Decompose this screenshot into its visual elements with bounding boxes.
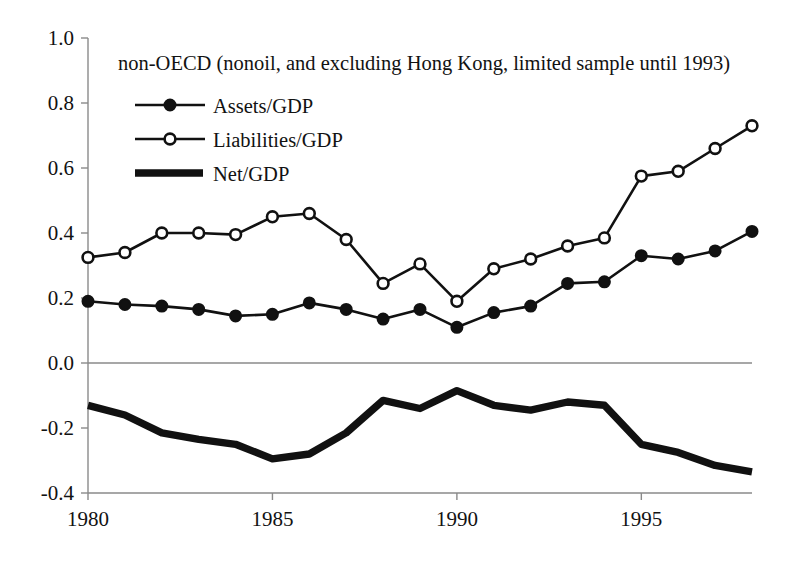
series-line-net-gdp xyxy=(88,391,752,472)
data-point-marker xyxy=(230,229,241,240)
y-axis-tick-labels: 1.00.80.60.40.20.0-0.2-0.4 xyxy=(41,26,75,505)
data-point-marker xyxy=(525,301,536,312)
data-point-marker xyxy=(636,171,647,182)
data-point-marker xyxy=(710,143,721,154)
x-tick-label: 1980 xyxy=(67,507,109,531)
y-tick-label: -0.2 xyxy=(41,416,74,440)
data-point-marker xyxy=(452,296,463,307)
y-tick-label: 0.0 xyxy=(48,351,74,375)
data-point-marker xyxy=(156,301,167,312)
data-point-marker xyxy=(267,211,278,222)
y-tick-label: 0.2 xyxy=(48,286,74,310)
data-point-marker xyxy=(230,311,241,322)
data-point-marker xyxy=(193,228,204,239)
y-tick-label: 0.4 xyxy=(48,221,75,245)
data-point-marker xyxy=(747,226,758,237)
data-point-marker xyxy=(599,276,610,287)
chart-title: non-OECD (nonoil, and excluding Hong Kon… xyxy=(118,52,730,75)
data-point-marker xyxy=(304,298,315,309)
data-point-marker xyxy=(636,250,647,261)
data-point-marker xyxy=(341,234,352,245)
data-point-marker xyxy=(83,252,94,263)
data-point-marker xyxy=(710,246,721,257)
legend-marker-filled-circle xyxy=(165,100,176,111)
chart-page: 1.00.80.60.40.20.0-0.2-0.4 1980198519901… xyxy=(0,0,793,563)
legend-label: Liabilities/GDP xyxy=(213,129,343,151)
data-point-marker xyxy=(378,314,389,325)
data-point-marker xyxy=(562,241,573,252)
chart-title-text: non-OECD (nonoil, and excluding Hong Kon… xyxy=(118,52,730,75)
data-point-marker xyxy=(673,166,684,177)
data-point-marker xyxy=(488,263,499,274)
x-tick-label: 1985 xyxy=(251,507,293,531)
x-tick-label: 1990 xyxy=(436,507,478,531)
data-point-marker xyxy=(673,254,684,265)
data-point-marker xyxy=(415,304,426,315)
legend-label: Net/GDP xyxy=(213,163,289,185)
y-tick-label: 1.0 xyxy=(48,26,74,50)
y-tick-label: 0.6 xyxy=(48,156,74,180)
series-line-liabilities-gdp xyxy=(88,126,752,301)
data-point-marker xyxy=(120,247,131,258)
chart-canvas: 1.00.80.60.40.20.0-0.2-0.4 1980198519901… xyxy=(0,0,793,563)
data-point-marker xyxy=(156,228,167,239)
chart-legend: Assets/GDPLiabilities/GDPNet/GDP xyxy=(135,95,343,185)
data-point-marker xyxy=(525,254,536,265)
data-point-marker xyxy=(452,322,463,333)
data-point-marker xyxy=(747,120,758,131)
data-point-marker xyxy=(378,278,389,289)
data-point-marker xyxy=(304,208,315,219)
data-point-marker xyxy=(83,296,94,307)
data-point-marker xyxy=(488,307,499,318)
data-point-marker xyxy=(599,233,610,244)
data-point-marker xyxy=(341,304,352,315)
data-point-marker xyxy=(562,278,573,289)
legend-marker-open-circle xyxy=(165,134,176,145)
x-axis-tick-labels: 1980198519901995 xyxy=(67,507,662,531)
data-point-marker xyxy=(193,304,204,315)
data-point-marker xyxy=(267,309,278,320)
y-tick-label: -0.4 xyxy=(41,481,75,505)
data-point-marker xyxy=(415,259,426,270)
legend-label: Assets/GDP xyxy=(213,95,313,117)
y-tick-label: 0.8 xyxy=(48,91,74,115)
data-point-marker xyxy=(120,299,131,310)
x-tick-label: 1995 xyxy=(620,507,662,531)
